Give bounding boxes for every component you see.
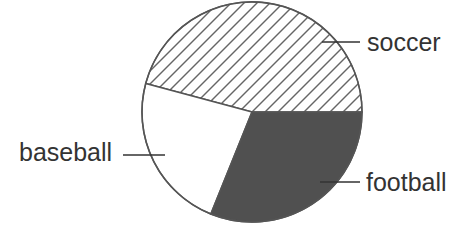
label-soccer: soccer bbox=[367, 28, 441, 56]
label-baseball: baseball bbox=[19, 138, 112, 166]
label-football: football bbox=[366, 168, 447, 196]
pie-chart: soccer baseball football bbox=[0, 0, 469, 226]
